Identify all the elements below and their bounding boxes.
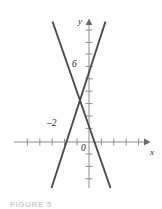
y-axis-label: y	[78, 17, 82, 26]
coordinate-plane-graphic	[0, 0, 162, 209]
origin-label: 0	[81, 144, 86, 154]
y-tick-label-6: 6	[72, 60, 77, 70]
y-axis-arrow-icon	[86, 19, 93, 26]
x-tick-label-neg-2: –2	[47, 119, 57, 129]
figure-container: y x 6 –2 0 FIGURE 5	[0, 0, 162, 209]
descending-line	[53, 22, 111, 189]
x-axis-label: x	[150, 148, 154, 157]
x-axis-arrow-icon	[144, 139, 151, 146]
ascending-line	[52, 22, 106, 189]
figure-caption: FIGURE 5	[10, 201, 52, 209]
